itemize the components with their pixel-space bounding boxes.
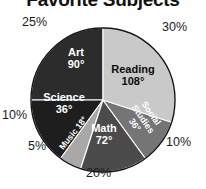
pie-chart-figure: Favorite Subjects Reading 108° Social St… xyxy=(0,0,206,189)
percent-label-math: 20% xyxy=(86,166,111,180)
svg-text:Reading: Reading xyxy=(111,63,154,75)
percent-label-science: 10% xyxy=(2,108,27,122)
svg-text:Math: Math xyxy=(91,122,117,134)
svg-text:36°: 36° xyxy=(56,103,73,115)
svg-text:Art: Art xyxy=(68,46,84,58)
percent-label-reading: 30% xyxy=(162,20,187,34)
svg-text:Science: Science xyxy=(43,91,85,103)
percent-label-music: 5% xyxy=(28,139,46,153)
svg-text:72°: 72° xyxy=(96,134,113,146)
svg-text:90°: 90° xyxy=(68,58,85,70)
percent-label-social-studies: 10% xyxy=(166,135,191,149)
percent-label-art: 25% xyxy=(22,15,47,29)
svg-text:108°: 108° xyxy=(122,75,145,87)
pie-label-art: Art 90° xyxy=(68,46,85,70)
